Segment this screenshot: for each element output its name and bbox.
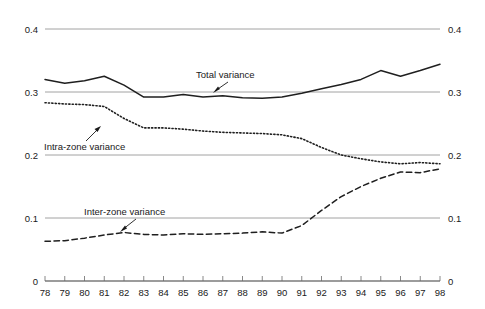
x-tick-label-93: 93: [336, 287, 347, 298]
annotation-label-inter-zone-variance: Inter-zone variance: [84, 206, 165, 217]
y-tick-label-left-0.3: 0.3: [25, 87, 38, 98]
x-tick-label-85: 85: [178, 287, 189, 298]
y-tick-label-right-0.4: 0.4: [448, 24, 461, 35]
x-tick-label-84: 84: [158, 287, 169, 298]
x-axis-labels: 7879808182838485868788899091929394959697…: [40, 287, 446, 298]
y-axis-labels-left: 0.4 0.3 0.2 0.1 0: [25, 24, 38, 287]
annotation-inter-zone-variance: Inter-zone variance: [84, 206, 165, 232]
variance-line-chart: 0.4 0.3 0.2 0.1 0 0.4 0.3 0.2 0.1 0 7879…: [0, 0, 485, 309]
x-tick-label-98: 98: [435, 287, 446, 298]
x-tick-label-90: 90: [277, 287, 288, 298]
y-tick-label-right-0.3: 0.3: [448, 87, 461, 98]
y-tick-label-left-0.4: 0.4: [25, 24, 38, 35]
x-tick-label-89: 89: [257, 287, 268, 298]
annotation-label-intra-zone-variance: Intra-zone variance: [44, 141, 125, 152]
y-tick-label-left-0.1: 0.1: [25, 213, 38, 224]
annotation-total-variance: Total variance: [196, 69, 255, 93]
x-tick-label-86: 86: [198, 287, 209, 298]
x-tick-label-95: 95: [375, 287, 386, 298]
y-tick-label-left-0: 0: [33, 276, 38, 287]
x-tick-label-88: 88: [237, 287, 248, 298]
x-tick-label-94: 94: [356, 287, 367, 298]
annotation-label-total-variance: Total variance: [196, 69, 255, 80]
annotation-intra-zone-variance: Intra-zone variance: [44, 126, 125, 152]
x-axis-tick-marks: [45, 276, 440, 281]
x-tick-label-96: 96: [395, 287, 406, 298]
x-tick-label-81: 81: [99, 287, 110, 298]
x-tick-label-92: 92: [316, 287, 327, 298]
x-tick-label-80: 80: [79, 287, 90, 298]
gridlines: [45, 29, 440, 218]
chart-container: 0.4 0.3 0.2 0.1 0 0.4 0.3 0.2 0.1 0 7879…: [0, 0, 485, 309]
y-tick-label-left-0.2: 0.2: [25, 150, 38, 161]
x-tick-label-82: 82: [119, 287, 130, 298]
x-tick-label-91: 91: [296, 287, 307, 298]
y-tick-label-right-0.2: 0.2: [448, 150, 461, 161]
x-tick-label-87: 87: [217, 287, 228, 298]
x-tick-label-83: 83: [138, 287, 149, 298]
x-tick-label-79: 79: [59, 287, 70, 298]
y-tick-label-right-0: 0: [448, 276, 453, 287]
y-tick-label-right-0.1: 0.1: [448, 213, 461, 224]
y-axis-labels-right: 0.4 0.3 0.2 0.1 0: [448, 24, 461, 287]
x-tick-label-97: 97: [415, 287, 426, 298]
x-tick-label-78: 78: [40, 287, 51, 298]
